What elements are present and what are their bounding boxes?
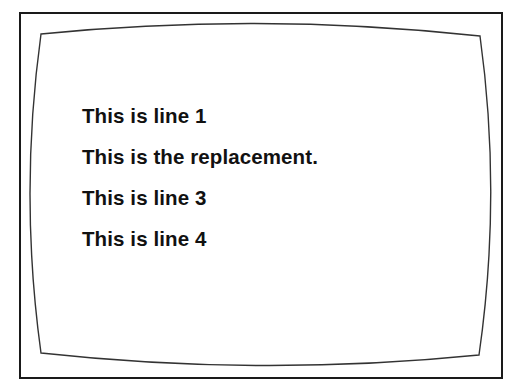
text-line-1: This is line 1 — [82, 102, 318, 143]
text-line-3: This is line 3 — [82, 184, 318, 225]
screen-text: This is line 1 This is the replacement. … — [82, 102, 318, 266]
text-line-4: This is line 4 — [82, 225, 318, 266]
text-line-2: This is the replacement. — [82, 143, 318, 184]
